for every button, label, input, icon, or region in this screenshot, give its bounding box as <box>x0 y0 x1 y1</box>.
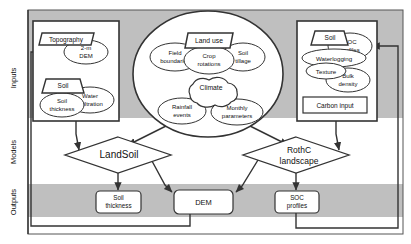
output-dem-label: DEM <box>195 198 212 207</box>
node-climate-label: Climate <box>199 84 222 91</box>
model-rothc-landscape-label-line1: RothC <box>287 145 311 155</box>
node-carbon-input-label: Carbon input <box>316 102 353 110</box>
node-topography-label: Topography <box>49 36 84 44</box>
diagram-canvas: Inputs Models Outputs 2-m DEM Topograp <box>0 0 411 244</box>
model-rothc-landscape-label-line2: landscape <box>280 156 319 166</box>
node-soil-thickness-input-label-line1: Soil <box>57 98 67 104</box>
node-rainfall-events-label-line1: Rainfall <box>172 104 192 110</box>
topography-soil-inputs-box[interactable]: 2-m DEM Topography Water infiltration So… <box>33 21 119 121</box>
output-soc-profiles[interactable]: SOC profiles <box>275 191 319 213</box>
node-waterlogging-label: Waterlogging <box>316 55 353 62</box>
soil-carbon-inputs-box[interactable]: SOC profiles Soil Bulk density Waterlogg… <box>297 21 377 121</box>
node-dem-2m-label-line1: 2-m <box>81 45 91 51</box>
row-label-models: Models <box>9 140 18 164</box>
node-bulk-density-label-line2: density <box>338 81 357 87</box>
node-crop-rotations-label-line2: rotations <box>197 61 220 67</box>
output-soc-profiles-label-line2: profiles <box>287 202 307 210</box>
node-water-infiltration-label-line1: Water <box>82 93 98 99</box>
land-use-climate-inputs-group[interactable]: Field boundaries Soil tillage Crop rotat… <box>133 11 283 137</box>
model-landsoil-label: LandSoil <box>100 149 139 160</box>
node-field-boundaries-label-line1: Field <box>168 50 181 56</box>
node-dem-2m-label-line2: DEM <box>79 53 92 59</box>
node-monthly-parameters-label-line2: parameters <box>222 113 252 119</box>
output-dem[interactable]: DEM <box>174 190 233 214</box>
node-rainfall-events-label-line2: events <box>173 112 191 118</box>
output-soil-thickness-label-line2: thickness <box>105 202 131 209</box>
node-crop-rotations-label-line1: Crop <box>202 53 216 59</box>
node-soil-right-label: Soil <box>325 34 336 41</box>
node-land-use-label: Land use <box>195 37 223 44</box>
node-soil-thickness-input-label-line2: thickness <box>49 106 74 112</box>
output-soil-thickness-label-line1: Soil <box>113 194 124 201</box>
node-monthly-parameters-label-line1: Monthly <box>226 105 247 111</box>
row-label-inputs: Inputs <box>9 68 18 89</box>
output-soc-profiles-label-line1: SOC <box>290 194 304 201</box>
node-soil-tillage-label-line2: tillage <box>235 58 251 64</box>
output-soil-thickness[interactable]: Soil thickness <box>96 191 141 213</box>
framework-diagram: Inputs Models Outputs 2-m DEM Topograp <box>0 0 411 244</box>
node-soil-left-label: Soil <box>58 82 69 89</box>
node-texture-label: Texture <box>316 68 337 75</box>
row-label-outputs: Outputs <box>9 189 18 216</box>
node-soil-tillage-label-line1: Soil <box>238 50 248 56</box>
